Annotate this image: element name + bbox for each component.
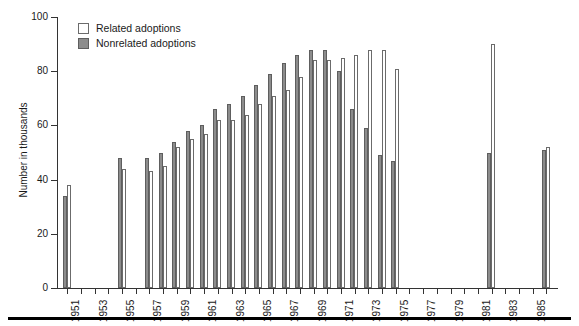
- x-axis-tick: [546, 289, 547, 294]
- x-axis-tick: [355, 289, 356, 294]
- bar-related: [546, 147, 550, 288]
- x-axis-tick: [368, 289, 369, 294]
- bottom-rule-divider: [8, 317, 571, 320]
- x-axis-tick: [245, 289, 246, 294]
- x-axis-tick: [190, 289, 191, 294]
- bar-related: [382, 50, 386, 288]
- bar-related: [368, 50, 372, 288]
- x-axis-tick: [177, 289, 178, 294]
- x-axis-tick: [327, 289, 328, 294]
- x-axis-tick: [108, 289, 109, 294]
- x-axis-tick: [122, 289, 123, 294]
- x-axis-tick: [232, 289, 233, 294]
- y-axis-tick-label: 80: [20, 66, 48, 76]
- bar-related: [217, 120, 221, 288]
- x-axis-tick: [437, 289, 438, 294]
- x-axis-tick: [478, 289, 479, 294]
- x-axis-line: [57, 288, 558, 289]
- y-axis-tick-label: 60: [20, 120, 48, 130]
- legend-swatch-nonrelated-icon: [78, 38, 89, 49]
- x-axis-tick: [505, 289, 506, 294]
- x-axis-tick: [314, 289, 315, 294]
- x-axis-tick: [204, 289, 205, 294]
- x-axis-tick: [95, 289, 96, 294]
- x-axis-tick: [136, 289, 137, 294]
- x-axis-tick: [218, 289, 219, 294]
- x-axis-tick: [451, 289, 452, 294]
- bar-related: [122, 169, 126, 288]
- legend-label-related: Related adoptions: [96, 22, 181, 35]
- legend-item-nonrelated: Nonrelated adoptions: [78, 36, 196, 50]
- bar-related: [176, 147, 180, 288]
- bar-related: [354, 55, 358, 288]
- x-axis-tick: [286, 289, 287, 294]
- x-axis-tick: [533, 289, 534, 294]
- bar-related: [341, 58, 345, 288]
- bar-related: [67, 185, 71, 288]
- x-axis-tick: [163, 289, 164, 294]
- x-axis-tick: [409, 289, 410, 294]
- y-axis-title: Number in thousands: [16, 5, 32, 295]
- x-axis-tick: [519, 289, 520, 294]
- x-axis-tick: [300, 289, 301, 294]
- x-axis-tick: [492, 289, 493, 294]
- x-axis-tick: [149, 289, 150, 294]
- y-axis-tick-label: 20: [20, 229, 48, 239]
- legend-label-nonrelated: Nonrelated adoptions: [96, 37, 196, 50]
- chart-legend: Related adoptions Nonrelated adoptions: [78, 21, 196, 51]
- x-axis-tick: [259, 289, 260, 294]
- bar-related: [327, 60, 331, 288]
- bar-related: [258, 104, 262, 288]
- bar-related: [163, 166, 167, 288]
- y-axis-tick-label: 40: [20, 175, 48, 185]
- legend-item-related: Related adoptions: [78, 21, 196, 35]
- bar-related: [299, 77, 303, 288]
- bar-related: [286, 90, 290, 288]
- x-axis-tick: [396, 289, 397, 294]
- bar-related: [313, 60, 317, 288]
- x-axis-tick: [382, 289, 383, 294]
- bar-related: [204, 134, 208, 288]
- y-axis-tick-label: 100: [20, 12, 48, 22]
- bar-related: [395, 69, 399, 289]
- x-axis-tick: [81, 289, 82, 294]
- y-axis-tick: [51, 288, 58, 289]
- x-axis-tick: [464, 289, 465, 294]
- bar-related: [245, 115, 249, 288]
- bar-related: [149, 171, 153, 288]
- bar-related: [272, 96, 276, 288]
- bar-related: [231, 120, 235, 288]
- adoptions-bar-chart: Number in thousands 020406080100 1951195…: [0, 0, 579, 326]
- x-axis-tick: [67, 289, 68, 294]
- bar-related: [491, 44, 495, 288]
- bar-group-container: [57, 17, 558, 288]
- x-axis-tick: [273, 289, 274, 294]
- legend-swatch-related-icon: [78, 23, 89, 34]
- y-axis-tick-label: 0: [20, 283, 48, 293]
- bar-related: [190, 139, 194, 288]
- x-axis-tick: [341, 289, 342, 294]
- x-axis-tick: [423, 289, 424, 294]
